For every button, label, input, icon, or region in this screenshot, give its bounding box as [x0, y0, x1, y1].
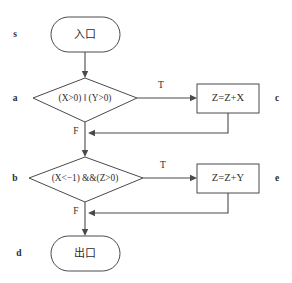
node-decision-b[interactable]: (X<−1) &&(Z>0)	[29, 157, 143, 202]
arrow-head-icon	[190, 95, 197, 101]
arrow-head-icon	[82, 229, 88, 236]
margin-label-c: c	[275, 93, 279, 103]
node-decision-b-label: (X<−1) &&(Z>0)	[52, 173, 119, 184]
edge-decision-b-true-to-process-e	[143, 175, 197, 181]
arrow-head-icon	[82, 150, 88, 157]
margin-label-e: e	[275, 173, 279, 183]
node-end-label: 出口	[74, 246, 97, 259]
node-process-e[interactable]: Z=Z+Y	[197, 164, 259, 193]
node-process-c[interactable]: Z=Z+X	[197, 84, 259, 113]
margin-label-d: d	[16, 248, 22, 258]
edge-label-a-false: F	[73, 126, 78, 136]
edge-label-b-true: T	[160, 160, 166, 170]
edge-label-b-false: F	[73, 206, 78, 216]
margin-label-a: a	[13, 93, 18, 103]
node-process-c-label: Z=Z+X	[212, 92, 245, 103]
edge-process-c-return-to-trunk	[88, 113, 228, 136]
node-start-label: 入口	[74, 28, 97, 40]
edge-process-e-return-to-trunk	[88, 193, 228, 216]
node-process-e-label: Z=Z+Y	[212, 172, 245, 183]
node-decision-a[interactable]: (X>0) ‖ (Y>0)	[33, 78, 137, 122]
flowchart-svg: 入口 (X>0) ‖ (Y>0) Z=Z+X (X<−1) &&(Z>0) Z=…	[0, 0, 292, 283]
node-start-entrance[interactable]: 入口	[51, 17, 120, 52]
arrow-head-icon	[82, 71, 88, 78]
flowchart-canvas: 入口 (X>0) ‖ (Y>0) Z=Z+X (X<−1) &&(Z>0) Z=…	[0, 0, 292, 283]
node-decision-a-label: (X>0) ‖ (Y>0)	[59, 93, 112, 104]
margin-label-s: s	[13, 29, 17, 39]
edge-label-a-true: T	[158, 80, 164, 90]
arrow-head-icon	[88, 130, 95, 136]
edge-decision-b-false-to-end	[82, 202, 88, 236]
margin-label-b: b	[12, 173, 17, 183]
edge-decision-a-true-to-process-c	[137, 95, 197, 101]
node-end-exit[interactable]: 出口	[51, 236, 120, 271]
edge-decision-a-false-to-decision-b	[82, 122, 88, 157]
edge-start-to-decision-a	[82, 52, 88, 78]
arrow-head-icon	[190, 175, 197, 181]
arrow-head-icon	[88, 210, 95, 216]
